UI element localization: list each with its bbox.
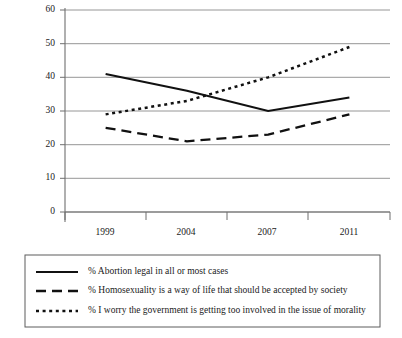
y-tick-label-60: 60 (46, 4, 56, 14)
y-tick-label-40: 40 (46, 71, 56, 81)
x-tick-label-2011: 2011 (340, 227, 359, 237)
y-axis: 60 50 40 30 20 10 0 (46, 4, 66, 222)
y-tick-label-50: 50 (46, 38, 56, 48)
y-tick-label-10: 10 (46, 172, 56, 182)
legend: % Abortion legal in all or most cases % … (25, 255, 380, 327)
x-tick-label-1999: 1999 (96, 227, 115, 237)
x-tick-label-2004: 2004 (177, 227, 196, 237)
legend-label-homosexuality: % Homosexuality is a way of life that sh… (88, 285, 348, 295)
data-series-group (106, 47, 350, 141)
x-axis: 1999 2004 2007 2011 (65, 212, 390, 237)
y-tick-label-30: 30 (46, 105, 56, 115)
line-chart-figure: 60 50 40 30 20 10 0 1999 2004 2007 2011 (0, 0, 402, 338)
grid-lines (65, 10, 390, 212)
series-line-homosexuality (106, 114, 350, 141)
chart-svg: 60 50 40 30 20 10 0 1999 2004 2007 2011 (0, 0, 402, 338)
legend-label-government: % I worry the government is getting too … (88, 305, 366, 315)
y-tick-label-20: 20 (46, 139, 56, 149)
series-line-abortion (106, 74, 350, 111)
legend-label-abortion: % Abortion legal in all or most cases (88, 266, 228, 276)
y-tick-label-0: 0 (50, 206, 55, 216)
x-tick-label-2007: 2007 (258, 227, 277, 237)
